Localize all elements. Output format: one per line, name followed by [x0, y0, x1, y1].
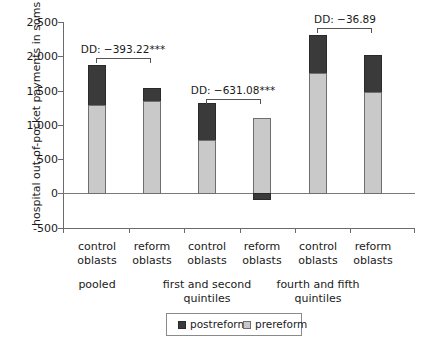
bar-3-prereform	[198, 140, 216, 194]
legend-item-postreform: postreform	[178, 319, 248, 330]
bar-chart: hospital out-of-pocket payments in soms …	[0, 0, 421, 354]
x-axis-tick-0	[63, 228, 64, 233]
legend-swatch-prereform-icon	[243, 321, 251, 329]
x-group-label-q45: fourth and fifth quintiles	[248, 278, 388, 306]
dd-bracket-pooled	[96, 58, 151, 63]
y-tick-mark-500	[58, 159, 64, 160]
x-axis-tick-5	[350, 228, 351, 233]
dd-bracket-q45	[317, 28, 372, 33]
bar-3-postreform	[198, 103, 216, 141]
x-axis-tick-4	[295, 228, 296, 233]
x-axis-tick-1	[129, 228, 130, 233]
y-tick-label-2500: 2,500	[0, 17, 58, 28]
bar-4-prereform	[253, 118, 271, 194]
zero-baseline	[63, 193, 415, 194]
x-axis-line	[63, 228, 415, 229]
dd-annotation-q12: DD: −631.08***	[153, 85, 313, 96]
y-tick-mark-1000	[58, 125, 64, 126]
y-tick-mark-2500	[58, 22, 64, 23]
x-category-label-6-line1: reform	[328, 240, 418, 254]
dd-annotation-pooled: DD: −393.22***	[43, 44, 203, 55]
legend-swatch-postreform-icon	[178, 321, 186, 329]
dd-bracket-q12	[206, 99, 261, 104]
y-tick-label-1500: 1,500	[0, 86, 58, 97]
bar-1-postreform	[88, 65, 106, 106]
x-axis-tick-3	[240, 228, 241, 233]
legend-label-prereform: prereform	[255, 319, 307, 330]
y-tick-label-1000: 1,000	[0, 120, 58, 131]
x-axis-tick-6	[414, 228, 415, 233]
bar-6-prereform	[364, 92, 382, 194]
x-category-label-6-line2: oblasts	[328, 254, 418, 268]
y-tick-mark-2000	[58, 56, 64, 57]
bar-5-postreform	[309, 35, 327, 74]
x-axis-tick-2	[184, 228, 185, 233]
bar-4-postreform	[253, 193, 271, 200]
x-group-label-q45-line1: fourth and fifth	[248, 278, 388, 292]
bar-2-prereform	[143, 101, 161, 194]
dd-annotation-q45: DD: −36.89	[265, 14, 421, 25]
x-group-label-q45-line2: quintiles	[248, 292, 388, 306]
y-tick-label-0: 0	[0, 188, 58, 199]
bar-6-postreform	[364, 55, 382, 93]
legend-item-prereform: prereform	[243, 319, 307, 330]
y-tick-label-neg500: -500	[0, 223, 58, 234]
bar-1-prereform	[88, 105, 106, 194]
y-tick-mark-1500	[58, 91, 64, 92]
y-tick-label-500: 500	[0, 154, 58, 165]
legend-label-postreform: postreform	[190, 319, 248, 330]
x-category-label-6: reform oblasts	[328, 240, 418, 268]
